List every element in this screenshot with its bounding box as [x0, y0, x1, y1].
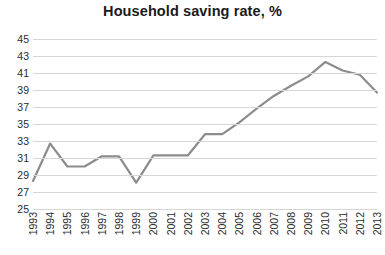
y-axis-tick-label: 35 — [0, 119, 29, 130]
gridline — [33, 39, 377, 40]
gridline — [33, 124, 377, 125]
x-axis-tick-label: 2006 — [252, 212, 263, 235]
plot-area — [33, 39, 377, 209]
y-axis-tick-label: 39 — [0, 85, 29, 96]
gridline — [33, 175, 377, 176]
x-axis-tick-label: 2004 — [217, 212, 228, 235]
x-axis-tick-label: 1997 — [97, 212, 108, 235]
gridline — [33, 192, 377, 193]
x-axis-tick-label: 2002 — [183, 212, 194, 235]
x-axis-tick-label: 1994 — [45, 212, 56, 235]
y-axis-tick-label: 41 — [0, 68, 29, 79]
x-axis-tick-label: 2009 — [303, 212, 314, 235]
gridline — [33, 158, 377, 159]
x-axis-tick-label: 2008 — [286, 212, 297, 235]
y-axis-tick-label: 25 — [0, 204, 29, 215]
y-axis-tick-label: 31 — [0, 153, 29, 164]
x-axis-tick-label: 2012 — [355, 212, 366, 235]
gridline — [33, 141, 377, 142]
x-axis-tick-label: 1995 — [62, 212, 73, 235]
y-axis: 4543413937353331292725 — [0, 39, 29, 209]
chart-title: Household saving rate, % — [0, 3, 385, 19]
x-axis-tick-label: 1999 — [131, 212, 142, 235]
y-axis-tick-label: 29 — [0, 170, 29, 181]
x-axis-tick-label: 1993 — [28, 212, 39, 235]
x-axis-tick-label: 2007 — [269, 212, 280, 235]
y-axis-tick-label: 43 — [0, 51, 29, 62]
x-axis-tick-label: 2005 — [234, 212, 245, 235]
y-axis-tick-label: 27 — [0, 187, 29, 198]
gridline — [33, 73, 377, 74]
x-axis: 1993199419951996199719981999200020012002… — [33, 212, 377, 255]
x-axis-tick-label: 2011 — [338, 212, 349, 235]
x-axis-tick-label: 1996 — [80, 212, 91, 235]
gridline — [33, 209, 377, 210]
x-axis-tick-label: 1998 — [114, 212, 125, 235]
x-axis-tick-label: 2013 — [372, 212, 383, 235]
chart-container: Household saving rate, % 454341393735333… — [0, 0, 385, 255]
x-axis-tick-label: 2001 — [166, 212, 177, 235]
y-axis-tick-label: 45 — [0, 34, 29, 45]
gridline — [33, 90, 377, 91]
y-axis-tick-label: 33 — [0, 136, 29, 147]
y-axis-tick-label: 37 — [0, 102, 29, 113]
gridline — [33, 107, 377, 108]
x-axis-tick-label: 2000 — [148, 212, 159, 235]
series-polyline — [33, 62, 377, 183]
gridline — [33, 56, 377, 57]
x-axis-tick-label: 2003 — [200, 212, 211, 235]
x-axis-tick-label: 2010 — [320, 212, 331, 235]
